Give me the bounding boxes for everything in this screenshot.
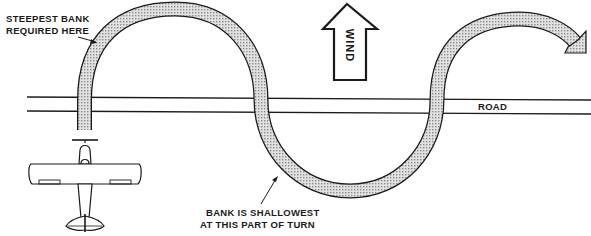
steepest-bank-label-line2: REQUIRED HERE bbox=[6, 25, 89, 36]
shallowest-label-line1: BANK IS SHALLOWEST bbox=[206, 207, 320, 218]
shallowest-label-line2: AT THIS PART OF TURN bbox=[200, 219, 315, 230]
wind-label: WIND bbox=[344, 28, 355, 64]
airplane-icon bbox=[29, 140, 141, 232]
shallowest-callout-arrow bbox=[261, 176, 278, 204]
steepest-bank-label-line1: STEEPEST BANK bbox=[6, 13, 90, 24]
road-label: ROAD bbox=[478, 101, 507, 112]
